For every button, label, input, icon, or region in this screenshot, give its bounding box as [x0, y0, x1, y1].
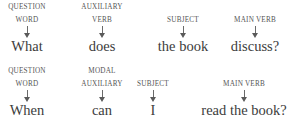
label-bottom: MAIN VERB — [234, 16, 276, 25]
row2-main-verb: MAIN VERB read the book? — [189, 67, 299, 118]
down-arrow-icon — [240, 90, 248, 102]
label-top: QUESTION — [8, 3, 46, 12]
label-bottom: AUXILIARY — [81, 80, 122, 89]
word: I — [151, 103, 156, 118]
down-arrow-icon — [23, 26, 31, 38]
row1-question-word: QUESTION WORD What — [2, 3, 52, 54]
word: does — [89, 39, 116, 54]
down-arrow-icon — [149, 90, 157, 102]
label-top: QUESTION — [8, 67, 46, 76]
word: What — [11, 39, 42, 54]
down-arrow-icon — [23, 90, 31, 102]
label-bottom: WORD — [16, 16, 39, 25]
label-bottom: VERB — [92, 16, 112, 25]
word: can — [92, 103, 112, 118]
row2-modal-auxiliary: MODAL AUXILIARY can — [72, 67, 132, 118]
down-arrow-icon — [179, 26, 187, 38]
row2-subject: SUBJECT I — [128, 67, 178, 118]
down-arrow-icon — [251, 26, 259, 38]
label-bottom: MAIN VERB — [223, 80, 265, 89]
row1-subject: SUBJECT the book — [153, 3, 213, 54]
row1-main-verb: MAIN VERB discuss? — [225, 3, 285, 54]
label-bottom: SUBJECT — [167, 16, 199, 25]
label-top: AUXILIARY — [81, 3, 122, 12]
word: discuss? — [231, 39, 279, 54]
word: When — [10, 103, 45, 118]
row2-question-word: QUESTION WORD When — [2, 67, 52, 118]
label-bottom: SUBJECT — [137, 80, 169, 89]
label-bottom: WORD — [16, 80, 39, 89]
label-top: MODAL — [88, 67, 115, 76]
down-arrow-icon — [98, 90, 106, 102]
down-arrow-icon — [98, 26, 106, 38]
word: read the book? — [201, 103, 286, 118]
row1-auxiliary-verb: AUXILIARY VERB does — [72, 3, 132, 54]
word: the book — [158, 39, 208, 54]
